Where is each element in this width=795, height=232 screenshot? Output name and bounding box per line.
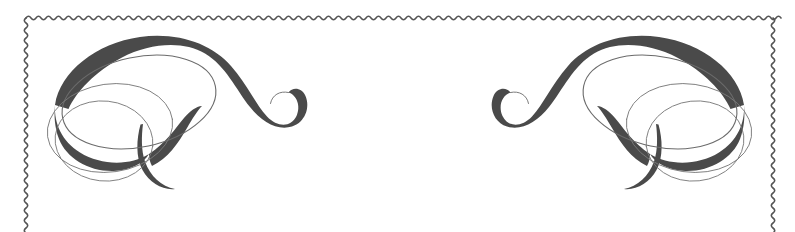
border-top-wave <box>26 16 781 19</box>
ornamental-border-artboard <box>0 0 795 232</box>
flourish-top-right <box>492 36 758 189</box>
ornament-canvas <box>0 0 795 232</box>
border-right-wave <box>771 18 774 232</box>
border-left-wave <box>24 18 27 232</box>
flourish-top-left <box>41 36 307 189</box>
